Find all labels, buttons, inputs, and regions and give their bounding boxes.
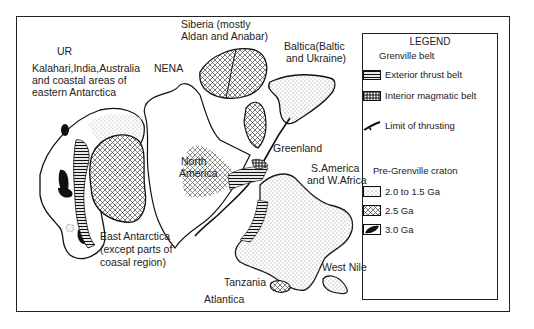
crosshatch-swatch-icon	[363, 205, 381, 216]
label-greenland: Greenland	[273, 142, 322, 155]
label-ur: UR	[57, 45, 72, 58]
legend-title: LEGEND	[363, 36, 497, 47]
grid-hatch-swatch-icon	[363, 91, 381, 101]
thrust-line-icon	[363, 121, 381, 131]
label-north-america-2: America	[179, 167, 218, 180]
legend-label: Limit of thrusting	[385, 120, 455, 131]
label-ur-desc-2: and coastal areas of	[32, 74, 127, 87]
label-nena: NENA	[154, 62, 183, 75]
horizontal-hatch-swatch-icon	[363, 70, 381, 80]
baltica-craton	[269, 75, 335, 124]
label-north-america-1: North	[181, 155, 207, 168]
label-ur-desc-3: eastern Antarctica	[32, 86, 116, 99]
label-baltica-2: and Ukraine)	[286, 52, 346, 65]
legend-label: 2.0 to 1.5 Ga	[385, 186, 440, 197]
label-east-antarctica-1: East Antarctica	[100, 230, 170, 243]
label-baltica-1: Baltica(Baltic	[284, 40, 345, 53]
label-east-antarctica-2: (except parts of	[100, 243, 172, 256]
tanzania-craton	[270, 281, 290, 293]
west-nile-craton	[323, 276, 347, 294]
legend-item-interior-magmatic: Interior magmatic belt	[363, 90, 476, 101]
label-east-antarctica-3: coasal region)	[100, 256, 166, 269]
legend-craton-heading: Pre-Grenville craton	[373, 165, 457, 176]
legend-item-stipple: 2.0 to 1.5 Ga	[363, 186, 440, 197]
legend-label: 2.5 Ga	[385, 205, 414, 216]
label-tanzania: Tanzania	[224, 276, 266, 289]
legend-item-crosshatch: 2.5 Ga	[363, 205, 414, 216]
legend-label: 3.0 Ga	[385, 224, 414, 235]
legend-grenville-heading: Grenville belt	[379, 50, 434, 61]
label-siberia-2: Aldan and Anabar)	[181, 30, 268, 43]
legend-label: Interior magmatic belt	[385, 90, 476, 101]
label-s-america-2: and W.Africa	[307, 174, 367, 187]
label-ur-desc-1: Kalahari,India,Australia	[32, 62, 140, 75]
legend-item-exterior-thrust: Exterior thrust belt	[363, 69, 462, 80]
label-siberia-1: Siberia (mostly	[181, 18, 250, 31]
legend-item-thrust-limit: Limit of thrusting	[363, 120, 455, 131]
legend-label: Exterior thrust belt	[385, 69, 462, 80]
legend-box: LEGEND Grenville belt Exterior thrust be…	[362, 33, 498, 300]
label-s-america-1: S.America	[311, 162, 359, 175]
stipple-swatch-icon	[363, 186, 381, 197]
siberia-craton	[200, 49, 267, 99]
legend-item-solid: 3.0 Ga	[363, 224, 414, 235]
label-west-nile: West Nile	[322, 261, 367, 274]
greenland-craton	[244, 102, 266, 148]
solid-black-swatch-icon	[363, 224, 381, 235]
label-atlantica: Atlantica	[204, 293, 244, 306]
